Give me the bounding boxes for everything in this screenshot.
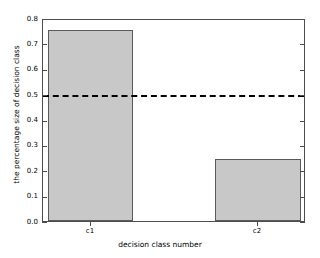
ytick-mark-right-2 [300,171,305,172]
ytick-mark-4 [42,121,47,122]
ytick-mark-right-8 [300,19,305,20]
ytick-mark-right-7 [300,44,305,45]
ytick-label-0: 0.0 [0,219,38,226]
bar-c2 [215,159,301,221]
ytick-mark-right-1 [300,197,305,198]
y-axis-label: the percentage size of decision class [12,15,21,215]
ytick-mark-3 [42,146,47,147]
ytick-mark-2 [42,171,47,172]
ytick-mark-7 [42,44,47,45]
bar-c1 [48,30,133,221]
ytick-mark-8 [42,19,47,20]
xtick-label-c1: c1 [70,227,110,235]
x-axis-label: decision class number [0,240,320,249]
ytick-mark-right-5 [300,95,305,96]
xtick-mark-c1 [90,222,91,226]
ytick-mark-5 [42,95,47,96]
plot-area [42,19,305,222]
ytick-mark-1 [42,197,47,198]
ytick-mark-0 [42,222,47,223]
ytick-mark-right-0 [300,222,305,223]
threshold-line [43,95,304,97]
ytick-mark-right-3 [300,146,305,147]
ytick-mark-right-4 [300,121,305,122]
ytick-mark-right-6 [300,70,305,71]
ytick-mark-6 [42,70,47,71]
xtick-label-c2: c2 [237,227,277,235]
bar-chart-figure: 0.0 0.1 0.2 0.3 0.4 0.5 0.6 0.7 0.8 c1 c… [0,0,320,258]
xtick-mark-c2 [257,222,258,226]
